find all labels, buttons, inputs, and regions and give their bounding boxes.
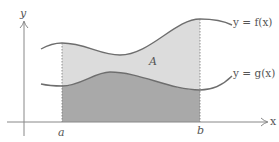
- x-axis-label: x: [270, 116, 276, 127]
- bound-label-a: a: [58, 127, 65, 138]
- y-axis-label: y: [20, 8, 26, 19]
- curve-label-g: y = g(x): [233, 68, 275, 79]
- region-label-a: A: [149, 56, 157, 67]
- bound-label-b: b: [197, 125, 204, 136]
- curve-label-f: y = f(x): [233, 17, 272, 28]
- area-between-curves-diagram: y x a b A y = f(x) y = g(x): [0, 0, 279, 142]
